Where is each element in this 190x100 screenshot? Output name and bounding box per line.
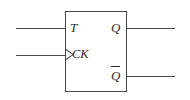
wire-input-ck — [16, 55, 65, 56]
input-label-ck: CK — [72, 48, 89, 61]
output-label-q-bar: Q — [111, 69, 120, 82]
output-label-q: Q — [111, 21, 120, 34]
t-flip-flop-diagram: T CK Q Q — [0, 0, 190, 100]
q-bar-overline — [111, 66, 120, 67]
wire-output-q-bar — [127, 76, 175, 77]
input-label-t: T — [70, 21, 77, 34]
wire-input-t — [16, 28, 65, 29]
wire-output-q — [127, 28, 175, 29]
